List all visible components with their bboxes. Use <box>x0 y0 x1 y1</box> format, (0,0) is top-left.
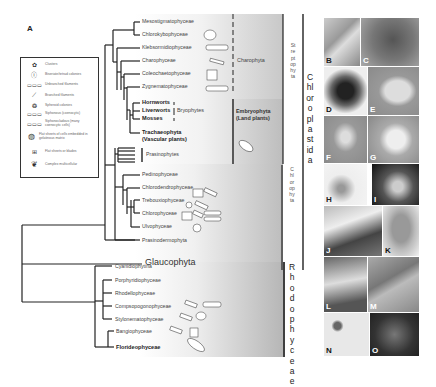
legend-item-flat-sheets: ⊞Flat sheets or blades <box>23 148 76 155</box>
group-land-plants: (Land plants) <box>236 116 270 122</box>
legend-item-unbranched: ▭▭▭Unbranched filaments <box>23 82 78 88</box>
branched-filaments-icon: ⟋ <box>23 92 45 99</box>
taxon-coleochaetophyceae: Coleochaetophyceae <box>142 71 191 76</box>
legend-item-clusters: ✿Clusters <box>23 61 57 68</box>
taxon-trebouxiophyceae: Trebouxiophyceae <box>142 198 185 203</box>
legend-item-spheroid: ❂Spheroid colonies <box>23 102 72 109</box>
group-chloroplastida: Chloroplastida <box>306 72 314 166</box>
taxon-liverworts: Liverworts <box>142 108 170 114</box>
taxon-chlorokybophyceae: Chlorokybophyceae <box>142 32 188 37</box>
taxon-prasinophytes: Prasinophytes <box>146 152 179 157</box>
photo-panel-b: B <box>324 18 360 66</box>
photo-panel-f: F <box>324 116 367 163</box>
taxon-klebsormidiophyceae: Klebsormidiophyceae <box>142 45 192 50</box>
photo-panel-m: M <box>368 257 419 312</box>
legend: ✿Clusters ⓘBiseriate/tetrad colonies ▭▭▭… <box>20 57 99 178</box>
photo-panel-g: G <box>368 116 419 163</box>
group-rhodophyceae: Rhodophyceae <box>288 262 296 387</box>
taxon-zygnematophyceae: Zygnematophyceae <box>142 84 188 89</box>
taxon-stylonematophyceae: Stylonematophyceae <box>115 317 163 322</box>
taxon-compsopogonophyceae: Compsopogonophyceae <box>115 304 171 309</box>
flat-sheets-gelatinous-icon: ◍ <box>23 132 39 141</box>
taxon-bangiophyceae: Bangiophyceae <box>116 329 152 334</box>
taxon-hornworts: Hornworts <box>142 100 170 106</box>
spheroid-colonies-icon: ❂ <box>23 102 45 109</box>
complex-multicellular-icon: ❦ <box>23 160 45 169</box>
photo-panel-c: C <box>361 18 419 66</box>
taxon-vascular-plants: (Vascular plants) <box>142 137 187 143</box>
legend-item-siphonous: ▭▭▭Siphonous (coenocytic) <box>23 111 80 117</box>
photo-panel-n: N <box>324 313 369 356</box>
taxon-mesostigmatophyceae: Mesostigmatophyceae <box>142 19 194 24</box>
siphonous-icon: ▭▭▭ <box>23 111 45 117</box>
photo-panel-o: O <box>370 313 419 356</box>
taxon-cyanidiophytina: Cyanidiophytina <box>115 264 152 269</box>
siphonocladous-icon: ▭▭▭ <box>23 121 45 127</box>
taxon-ulvophyceae: Ulvophyceae <box>142 224 172 229</box>
taxon-mosses: Mosses <box>142 116 163 122</box>
photo-panel-k: K <box>383 206 419 256</box>
photo-panel-h: H <box>324 164 367 205</box>
group-bryophytes: Bryophytes <box>177 108 204 114</box>
photo-panel-e: E <box>368 67 419 115</box>
clusters-icon: ✿ <box>23 61 45 68</box>
group-charophyta: Charophyta <box>237 58 265 64</box>
legend-item-flat-sheets-gelatinous: ◍Flat sheets of cells embedded in gelati… <box>23 132 95 141</box>
taxon-chlorodendrophyceae: Chlorodendrophyceae <box>142 185 193 190</box>
photo-panel-d: D <box>324 67 367 115</box>
taxon-florideophyceae: Florideophyceae <box>116 345 160 351</box>
group-chlorophyta: Chlorophyta <box>289 166 295 204</box>
flat-sheets-icon: ⊞ <box>23 148 45 155</box>
photo-panel-i: I <box>372 164 419 205</box>
legend-item-complex: ❦Complex multicellular <box>23 160 77 169</box>
taxon-charophyceae: Charophyceae <box>142 58 176 63</box>
taxon-pedinophyceae: Pedinophyceae <box>142 172 178 177</box>
legend-item-siphonocladous: ▭▭▭Siphonocladous (many coenocytic cells… <box>23 120 90 128</box>
taxon-chlorophyceae: Chlorophyceae <box>142 211 177 216</box>
biseriate-colonies-icon: ⓘ <box>23 70 45 79</box>
photo-panel-j: J <box>324 206 382 256</box>
unbranched-filaments-icon: ▭▭▭ <box>23 82 45 88</box>
taxon-prasinodermophyta: Prasinodermophyta <box>142 238 187 243</box>
group-streptophyta: Streptophyta <box>290 42 296 80</box>
taxon-rhodellophyceae: Rhodellophyceae <box>115 291 155 296</box>
taxon-glaucophyta: Glaucophyta <box>145 257 196 267</box>
taxon-porphyridiophyceae: Porphyridiophyceae <box>115 278 161 283</box>
taxon-trachaeophyta: Trachaeophyta <box>142 130 181 136</box>
photo-panel-l: L <box>324 257 367 312</box>
legend-item-biseriate: ⓘBiseriate/tetrad colonies <box>23 70 90 79</box>
legend-item-branched: ⟋Branched filaments <box>23 92 74 99</box>
